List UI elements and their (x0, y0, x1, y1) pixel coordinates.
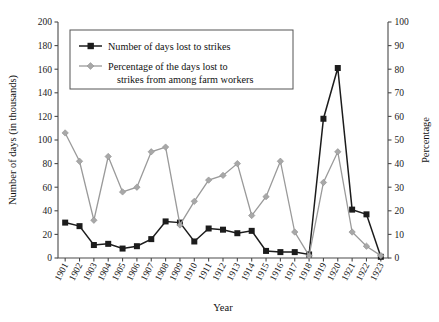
y-tick-label: 100 (38, 135, 53, 145)
y-tick-label: 200 (38, 17, 53, 27)
series-marker (134, 184, 140, 190)
series-marker (91, 242, 97, 248)
y-axis-title: Number of days (in thousands) (7, 74, 19, 205)
series-marker (292, 229, 298, 235)
y2-tick-label: 10 (395, 230, 405, 240)
series-marker (91, 217, 97, 223)
series-marker (119, 189, 125, 195)
x-axis-title: Year (213, 302, 233, 313)
series-marker (249, 228, 255, 234)
series-line (65, 133, 381, 256)
x-tick-label: 1923 (368, 261, 386, 282)
series-marker (234, 230, 240, 236)
series-marker (335, 149, 341, 155)
series-marker (220, 227, 226, 233)
y-tick-label: 0 (47, 253, 52, 263)
x-tick-label: 1910 (182, 261, 200, 282)
series-marker (320, 116, 326, 122)
y-tick-label: 40 (43, 206, 53, 216)
y-tick-label: 120 (38, 112, 53, 122)
series-marker (263, 248, 269, 254)
series-marker (292, 249, 298, 255)
y-tick-label: 80 (43, 159, 53, 169)
series-marker (148, 149, 154, 155)
x-axis-ticks: 1901190219031904190519061907190819091910… (53, 258, 386, 282)
y2-tick-label: 70 (395, 88, 405, 98)
series-marker (120, 246, 126, 252)
y-tick-label: 140 (38, 88, 53, 98)
y-tick-label: 180 (38, 41, 53, 51)
y2-axis-title: Percentage (420, 117, 431, 163)
y2-tick-label: 40 (395, 159, 405, 169)
legend-label-days: Number of days lost to strikes (108, 41, 231, 52)
series-marker (206, 226, 212, 232)
series-marker (105, 153, 111, 159)
y2-tick-label: 90 (395, 41, 405, 51)
series-marker (335, 65, 341, 71)
series-marker (191, 238, 197, 244)
y2-tick-label: 100 (395, 17, 410, 27)
series-marker (163, 218, 169, 224)
series-marker (162, 144, 168, 150)
line-chart: 020406080100120140160180200 010203040506… (0, 0, 439, 322)
y2-tick-label: 50 (395, 135, 405, 145)
series-marker (277, 158, 283, 164)
y-axis-ticks: 020406080100120140160180200 (38, 17, 58, 263)
y-tick-label: 160 (38, 65, 53, 75)
series-marker (134, 243, 140, 249)
y-tick-label: 60 (43, 183, 53, 193)
series-marker (363, 211, 369, 217)
y2-tick-label: 30 (395, 183, 405, 193)
chart-legend: Number of days lost to strikesPercentage… (70, 30, 293, 89)
series-marker (148, 236, 154, 242)
series-marker (349, 207, 355, 213)
y2-tick-label: 60 (395, 112, 405, 122)
y2-tick-label: 20 (395, 206, 405, 216)
series-marker (277, 249, 283, 255)
legend-label-percentage-line1: Percentage of the days lost to (108, 61, 228, 72)
y2-tick-label: 80 (395, 65, 405, 75)
y2-axis-ticks: 0102030405060708090100 (388, 17, 409, 263)
series-marker (105, 241, 111, 247)
series-marker (62, 130, 68, 136)
chart-container: 020406080100120140160180200 010203040506… (0, 0, 439, 322)
legend-swatch-marker (88, 43, 94, 49)
legend-label-percentage-line2: strikes from among farm workers (117, 74, 253, 85)
series-marker (76, 158, 82, 164)
y-tick-label: 20 (43, 230, 53, 240)
y2-tick-label: 0 (395, 253, 400, 263)
series-marker (77, 223, 83, 229)
series-marker (62, 220, 68, 226)
series-marker (320, 179, 326, 185)
chart-series (62, 65, 384, 260)
